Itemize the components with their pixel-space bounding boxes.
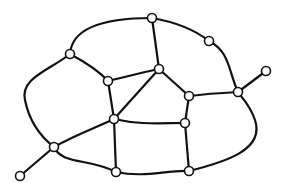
node-J bbox=[181, 119, 190, 128]
node-A bbox=[148, 14, 157, 23]
edge-N-G bbox=[189, 92, 257, 171]
nodes-group bbox=[16, 14, 271, 181]
edge-E-I bbox=[114, 69, 159, 119]
edge-C-D bbox=[70, 54, 108, 81]
node-I bbox=[110, 115, 119, 124]
edge-H-E bbox=[159, 69, 189, 96]
node-D bbox=[104, 77, 113, 86]
node-G bbox=[234, 88, 243, 97]
edge-K-I bbox=[54, 119, 114, 147]
node-K bbox=[50, 143, 59, 152]
edge-B-G bbox=[209, 41, 238, 92]
edge-J-N bbox=[185, 123, 189, 171]
node-E bbox=[155, 65, 164, 74]
edge-I-J bbox=[114, 119, 185, 123]
edge-K-L bbox=[20, 147, 54, 176]
edge-K-M bbox=[54, 147, 116, 172]
edge-C-K bbox=[24, 54, 70, 147]
network-diagram bbox=[0, 0, 285, 191]
node-L bbox=[16, 172, 25, 181]
node-H bbox=[185, 92, 194, 101]
edge-I-M bbox=[114, 119, 116, 172]
node-M bbox=[112, 168, 121, 177]
node-F bbox=[262, 67, 271, 76]
edge-G-H bbox=[189, 92, 238, 96]
edge-A-E bbox=[152, 18, 159, 69]
node-C bbox=[66, 50, 75, 59]
edges-group bbox=[20, 18, 266, 176]
edge-C-A bbox=[70, 18, 152, 54]
edge-M-N bbox=[116, 171, 189, 174]
edge-D-I bbox=[108, 81, 114, 119]
edge-A-B bbox=[152, 18, 209, 41]
node-N bbox=[185, 167, 194, 176]
edge-E-D bbox=[108, 69, 159, 81]
node-B bbox=[205, 37, 214, 46]
